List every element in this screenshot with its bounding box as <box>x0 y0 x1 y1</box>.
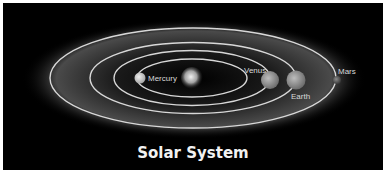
label-venus: Venus <box>244 66 266 75</box>
solar-system-diagram: Mercury Venus Earth Mars Solar System <box>0 0 387 175</box>
sun-icon <box>181 67 203 89</box>
label-mercury: Mercury <box>148 74 177 83</box>
label-earth: Earth <box>291 92 310 101</box>
planet-mars-icon <box>333 76 341 84</box>
planet-mercury-icon <box>135 73 146 84</box>
diagram-title: Solar System <box>137 144 248 162</box>
label-mars: Mars <box>338 67 356 76</box>
planet-earth-icon <box>287 71 306 90</box>
